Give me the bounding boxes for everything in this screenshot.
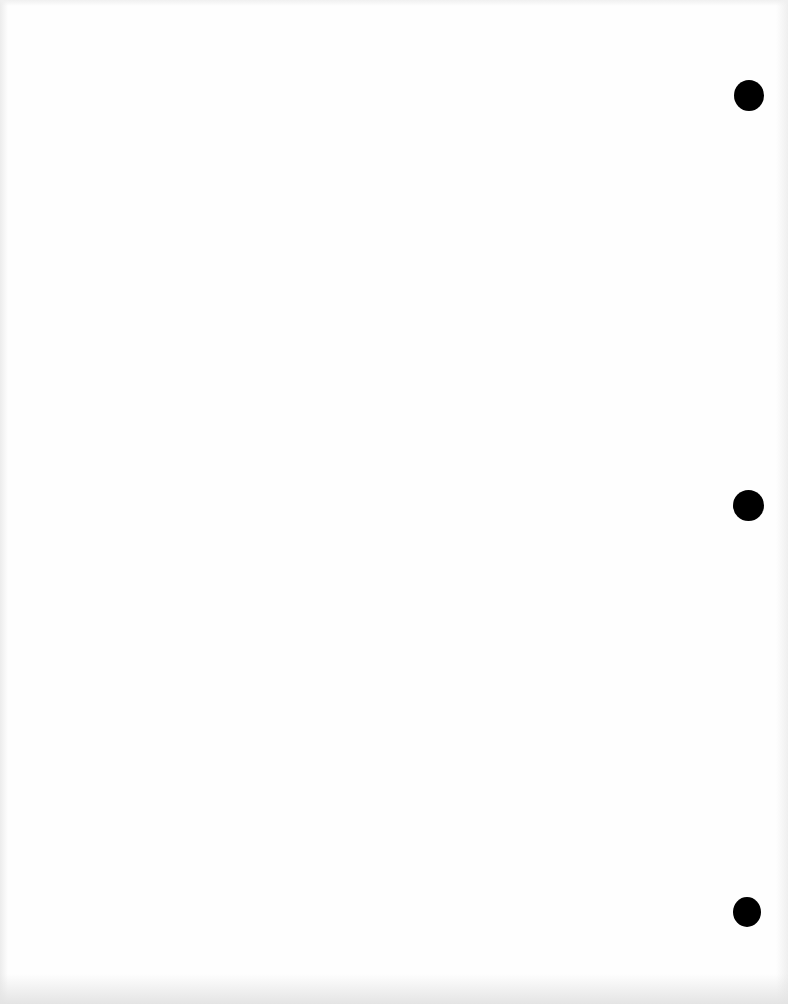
scan-edge-shadow-right [776, 0, 788, 1004]
scan-edge-shadow-bottom [0, 974, 788, 1004]
punch-hole-middle [733, 490, 764, 521]
punch-hole-top [734, 80, 764, 111]
scan-edge-shadow-left [0, 0, 8, 1004]
punch-hole-bottom [733, 897, 761, 927]
blank-page [0, 0, 788, 1004]
scan-edge-shadow-top [0, 0, 788, 6]
